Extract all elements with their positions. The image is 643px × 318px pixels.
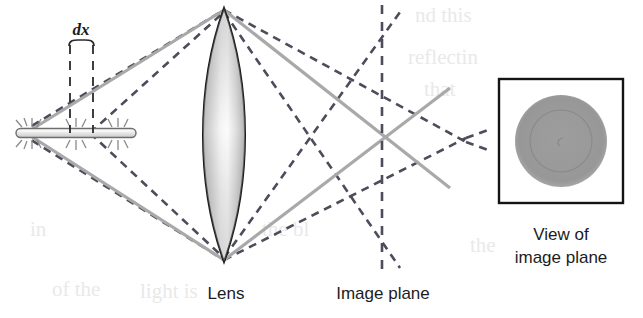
- dashed-ray-a1-exit: [224, 10, 466, 142]
- svg-text:nd this: nd this: [415, 3, 472, 27]
- image-plane-label: Image plane: [336, 284, 430, 303]
- svg-text:in: in: [30, 217, 47, 241]
- lens-element: [203, 8, 245, 262]
- object-source: [16, 118, 136, 150]
- background-ghost-text: nd this reflectin that in of the light i…: [30, 3, 496, 303]
- solid-ray-2-in: [26, 133, 224, 260]
- blur-disk-outer: [515, 95, 607, 187]
- object-bar: [16, 129, 136, 138]
- solid-ray-1-out: [224, 10, 450, 188]
- dx-measure: dx: [69, 20, 94, 133]
- svg-text:of the: of the: [52, 277, 100, 301]
- svg-text:reflectin: reflectin: [408, 45, 478, 69]
- dashed-ray-stub-upper: [466, 142, 488, 150]
- svg-text:the: the: [470, 233, 496, 257]
- solid-ray-1-in: [26, 10, 224, 133]
- dx-label: dx: [73, 20, 91, 39]
- view-panel-label-line1: View of: [533, 225, 589, 244]
- svg-text:light is: light is: [140, 279, 198, 303]
- dashed-ray-a2-exit: [224, 138, 466, 260]
- view-panel-label-line2: image plane: [515, 248, 608, 267]
- dashed-ray-stub-lower: [466, 130, 488, 138]
- solid-ray-2-out: [224, 88, 450, 260]
- lens-body-shade: [203, 8, 245, 262]
- diagram-canvas: nd this reflectin that in of the light i…: [0, 0, 643, 318]
- lens-label: Lens: [208, 284, 245, 303]
- dx-brace: [69, 40, 94, 46]
- view-of-image-plane-panel: [499, 79, 623, 203]
- lens-diagram-figure: nd this reflectin that in of the light i…: [0, 0, 643, 318]
